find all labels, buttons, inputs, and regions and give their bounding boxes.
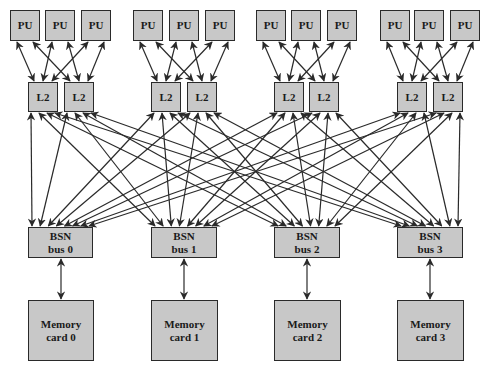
pu-label: PU [89,19,104,32]
memory-card-number: card 3 [410,331,450,344]
bidirectional-arrow [204,113,408,226]
bidirectional-arrow [43,42,52,81]
pu-box: PU [169,10,199,41]
memory-card-box: Memorycard 0 [28,300,94,361]
pu-box: PU [291,10,321,41]
pu-label: PU [299,19,314,32]
pu-label: PU [422,19,437,32]
pu-box: PU [81,10,111,41]
l2-label: L2 [442,91,455,104]
pu-box: PU [256,10,286,41]
bsn-bus-box: BSNbus 1 [151,227,217,258]
memory-label: Memory [287,318,327,331]
bsn-bus-box: BSNbus 3 [397,227,463,258]
l2-cache-box: L2 [64,82,94,112]
bidirectional-arrow [55,113,401,226]
l2-cache-box: L2 [274,82,304,112]
memory-card-number: card 1 [164,331,204,344]
l2-label: L2 [37,91,50,104]
pu-label: PU [18,19,33,32]
bidirectional-arrow [17,42,34,81]
pu-box: PU [450,10,480,41]
memory-card-box: Memorycard 3 [397,300,464,361]
bsn-bus-box: BSNbus 0 [28,227,93,258]
pu-box: PU [45,10,75,41]
l2-label: L2 [318,91,331,104]
memory-card-box: Memorycard 2 [274,300,341,361]
l2-cache-box: L2 [309,82,339,112]
pu-box: PU [380,10,410,41]
bidirectional-arrow [140,42,157,81]
bidirectional-arrow [424,113,450,226]
bsn-bus-number: bus 1 [172,243,197,256]
l2-cache-box: L2 [28,82,58,112]
l2-label: L2 [283,91,296,104]
pu-label: PU [213,19,228,32]
bidirectional-arrow [211,42,228,81]
pu-label: PU [388,19,403,32]
bsn-label: BSN [48,230,73,243]
l2-label: L2 [406,91,419,104]
bidirectional-arrow [83,113,286,226]
bidirectional-arrow [387,42,403,81]
l2-label: L2 [196,91,209,104]
bsn-bus-number: bus 2 [295,243,320,256]
bsn-label: BSN [295,230,320,243]
bsn-bus-box: BSNbus 2 [274,227,340,258]
bidirectional-arrow [40,113,67,226]
pu-box: PU [133,10,163,41]
l2-cache-box: L2 [151,82,181,112]
pu-label: PU [264,19,279,32]
bidirectional-arrow [89,113,436,226]
bidirectional-arrow [263,42,280,81]
memory-card-number: card 2 [287,331,327,344]
pu-box: PU [414,10,444,41]
bidirectional-arrow [457,42,473,81]
system-architecture-diagram: PU PU PU L2 L2 PU PU PU L2 L2 PU PU PU L… [0,0,488,372]
memory-card-number: card 0 [41,331,81,344]
pu-label: PU [53,19,68,32]
pu-box: PU [327,10,357,41]
bsn-label: BSN [418,230,443,243]
bsn-bus-number: bus 0 [48,243,73,256]
l2-label: L2 [160,91,173,104]
bidirectional-arrow [458,113,460,226]
bidirectional-arrow [327,113,416,226]
bsn-label: BSN [172,230,197,243]
l2-cache-box: L2 [397,82,427,112]
pu-label: PU [458,19,473,32]
bidirectional-arrow [333,42,350,81]
bidirectional-arrow [75,113,163,226]
bidirectional-arrow [412,42,421,81]
bidirectional-arrow [33,42,70,81]
bsn-bus-number: bus 3 [418,243,443,256]
bidirectional-arrow [188,113,285,226]
bidirectional-arrow [403,42,439,81]
bidirectional-arrow [31,113,32,226]
memory-label: Memory [410,318,450,331]
memory-card-box: Memorycard 1 [151,300,218,361]
bidirectional-arrow [206,113,302,226]
pu-label: PU [335,19,350,32]
l2-label: L2 [73,91,86,104]
pu-label: PU [177,19,192,32]
pu-label: PU [141,19,156,32]
bidirectional-arrow [47,113,278,226]
memory-label: Memory [164,318,204,331]
bidirectional-arrow [88,42,104,81]
l2-cache-box: L2 [433,82,463,112]
memory-label: Memory [41,318,81,331]
l2-cache-box: L2 [187,82,217,112]
pu-box: PU [10,10,40,41]
pu-box: PU [205,10,235,41]
